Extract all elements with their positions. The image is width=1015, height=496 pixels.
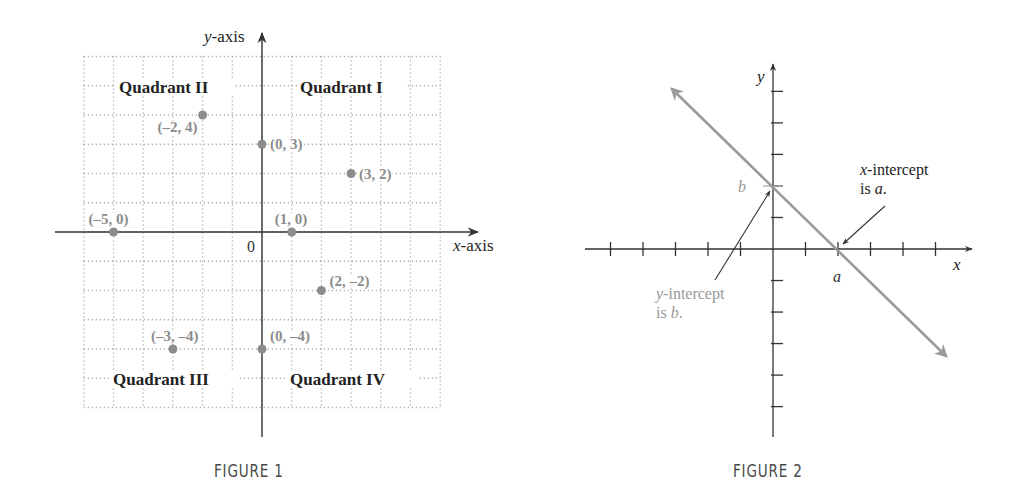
point-label: (–3, –4): [151, 328, 199, 345]
y-axis-label: y: [755, 67, 765, 86]
data-point: [198, 111, 207, 120]
x-intercept-annotation: x-intercept is a.: [859, 161, 932, 197]
data-point: [258, 140, 267, 149]
y-intercept-annotation: y-intercept is b.: [654, 285, 728, 321]
b-label: b: [738, 178, 746, 195]
figure-1-coordinate-plane: y-axis x-axis 0 Quadrant II Quadrant I Q…: [55, 27, 494, 437]
data-point: [168, 345, 177, 354]
point-label: (3, 2): [359, 166, 392, 183]
point-label: (0, 3): [270, 136, 303, 153]
a-label: a: [833, 268, 841, 285]
data-point: [317, 286, 326, 295]
point-label: (1, 0): [275, 211, 308, 228]
point-label: (0, –4): [270, 328, 310, 345]
x-intercept-pointer: [843, 206, 885, 244]
quadrant-iv-label: Quadrant IV: [290, 370, 386, 389]
y-intercept-pointer: [715, 191, 770, 280]
data-point: [287, 228, 296, 237]
figures-canvas: y-axis x-axis 0 Quadrant II Quadrant I Q…: [0, 0, 1015, 496]
figure-1-caption: FIGURE 1: [214, 462, 284, 482]
point-label: (–2, 4): [158, 119, 198, 136]
quadrant-i-label: Quadrant I: [300, 78, 383, 97]
figure-2-intercepts: y x b a x-intercept is a. y-intercept is…: [585, 64, 972, 437]
point-label: (2, –2): [329, 273, 369, 290]
graphed-line: [672, 89, 946, 356]
data-point: [109, 228, 118, 237]
figure-2-caption: FIGURE 2: [733, 462, 803, 482]
x-axis-label: x: [952, 255, 961, 274]
y-axis-label: y-axis: [202, 27, 245, 46]
point-label: (–5, 0): [89, 211, 129, 228]
data-point: [258, 345, 267, 354]
quadrant-ii-label: Quadrant II: [119, 78, 209, 97]
data-point: [347, 169, 356, 178]
x-axis-label: x-axis: [452, 236, 494, 255]
origin-label: 0: [247, 238, 255, 255]
quadrant-iii-label: Quadrant III: [113, 370, 209, 389]
